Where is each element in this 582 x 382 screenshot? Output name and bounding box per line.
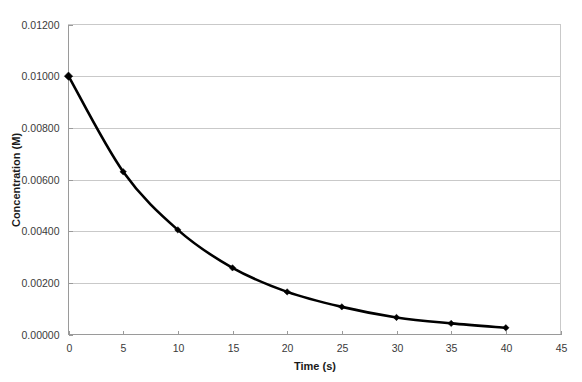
x-tick-label: 30 <box>392 342 404 354</box>
y-tick-label: 0.01000 <box>22 70 60 82</box>
x-tick-label: 5 <box>121 342 127 354</box>
x-tick-label: 35 <box>446 342 458 354</box>
x-tick-label: 0 <box>67 342 73 354</box>
x-tick-label: 10 <box>173 342 185 354</box>
x-axis-title: Time (s) <box>294 360 336 372</box>
y-tick-label: 0.00000 <box>22 329 60 341</box>
chart-background <box>0 0 582 382</box>
y-tick-label: 0.00600 <box>22 174 60 186</box>
y-tick-label: 0.00400 <box>22 225 60 237</box>
x-tick-label: 20 <box>282 342 294 354</box>
x-tick-label: 25 <box>337 342 349 354</box>
y-tick-label: 0.00200 <box>22 277 60 289</box>
x-tick-label: 40 <box>501 342 513 354</box>
y-tick-label: 0.01200 <box>22 19 60 31</box>
y-tick-label: 0.00800 <box>22 122 60 134</box>
x-tick-label: 45 <box>556 342 568 354</box>
x-tick-label: 15 <box>228 342 240 354</box>
y-axis-title: Concentration (M) <box>10 133 22 227</box>
concentration-vs-time-chart: 0.000000.002000.004000.006000.008000.010… <box>0 0 582 382</box>
chart-container: 0.000000.002000.004000.006000.008000.010… <box>0 0 582 382</box>
